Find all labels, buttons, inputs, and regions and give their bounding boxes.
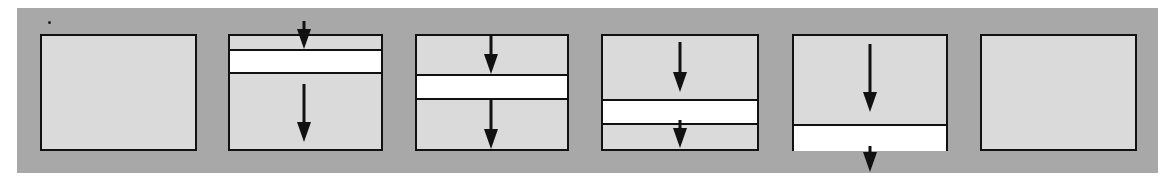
frame-panel-5 xyxy=(792,34,948,151)
diagram-stage xyxy=(0,0,1174,181)
frame-panel-6 xyxy=(980,34,1137,151)
down-arrow-icon xyxy=(484,34,498,74)
arrow-group xyxy=(603,36,761,153)
white-band xyxy=(603,99,757,125)
frame-panel-4 xyxy=(601,34,759,151)
speck-mark xyxy=(48,21,51,24)
white-band xyxy=(230,49,381,74)
frame-panel-1 xyxy=(40,34,197,151)
down-arrow-icon xyxy=(484,100,498,149)
down-arrow-icon xyxy=(863,44,877,112)
down-arrow-icon xyxy=(673,42,687,92)
white-band xyxy=(417,74,567,100)
frame-panel-3 xyxy=(415,34,569,151)
down-arrow-icon xyxy=(297,84,311,142)
white-band xyxy=(794,124,946,151)
frame-panel-2 xyxy=(228,34,383,151)
